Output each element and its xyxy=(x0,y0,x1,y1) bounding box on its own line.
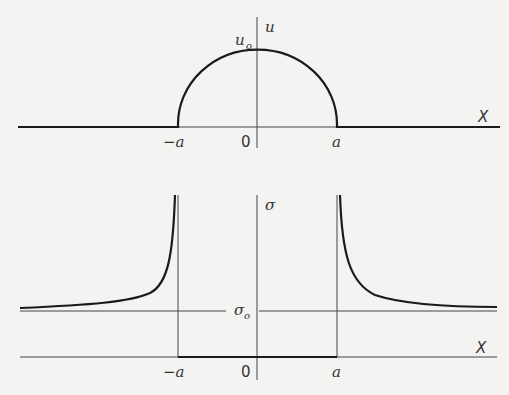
sigma-axis-label: σ xyxy=(265,196,276,214)
top-tick-a: a xyxy=(332,133,341,151)
sigma0-sub: o xyxy=(244,310,250,321)
top-tick-neg-a: −a xyxy=(163,133,185,151)
stress-curve-right xyxy=(340,195,497,307)
bottom-tick-zero: 0 xyxy=(241,363,251,381)
bottom-tick-a: a xyxy=(332,363,341,381)
u0-sub: o xyxy=(246,40,252,51)
stress-curve-left xyxy=(20,195,175,308)
top-tick-zero: 0 xyxy=(241,133,251,151)
u0-label: u xyxy=(235,31,245,49)
u-axis-label: u xyxy=(265,18,275,36)
diagram: u u o X −a 0 a σ σ o X −a 0 a xyxy=(0,0,509,395)
displacement-curve xyxy=(18,50,500,127)
diagram-canvas: u u o X −a 0 a σ σ o X −a 0 a xyxy=(0,0,509,395)
top-plot: u u o X −a 0 a xyxy=(18,17,500,151)
bottom-x-label: X xyxy=(475,339,487,357)
top-x-label: X xyxy=(477,108,489,126)
bottom-plot: σ σ o X −a 0 a xyxy=(20,195,497,381)
bottom-tick-neg-a: −a xyxy=(163,363,185,381)
